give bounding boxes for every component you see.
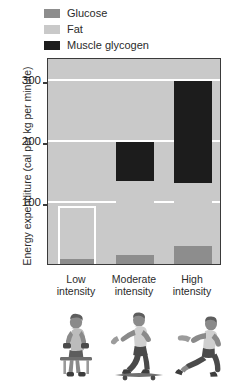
bar-segment-fat <box>116 181 154 255</box>
bar-low-intensity <box>58 206 96 264</box>
legend-item-muscle-glycogen: Muscle glycogen <box>44 38 224 53</box>
legend-item-glucose: Glucose <box>44 6 224 21</box>
legend-swatch-fat <box>44 25 60 34</box>
x-label-moderate-intensity: Moderateintensity <box>105 273 163 297</box>
bar-segment-fat <box>174 183 212 246</box>
exercise-illustrations <box>47 306 227 381</box>
skateboarding-icon <box>109 311 167 381</box>
legend-item-fat: Fat <box>44 22 224 37</box>
legend-swatch-glucose <box>44 9 60 18</box>
bar-segment-glucose <box>116 255 154 264</box>
x-label-low-intensity: Lowintensity <box>47 273 105 297</box>
plot-area <box>47 58 221 265</box>
y-tick-label-300: 300 <box>1 74 41 86</box>
x-label-high-intensity: Highintensity <box>163 273 221 297</box>
bar-segment-muscle-glycogen <box>116 142 154 180</box>
energy-expenditure-chart: Glucose Fat Muscle glycogen Energy expen… <box>0 0 233 381</box>
y-tick-label-200: 200 <box>1 135 41 147</box>
chart-legend: Glucose Fat Muscle glycogen <box>44 6 224 54</box>
bar-segment-fat <box>60 208 94 259</box>
sprinting-runner-icon <box>169 313 227 381</box>
legend-label-fat: Fat <box>67 23 83 36</box>
bar-high-intensity <box>174 81 212 264</box>
legend-swatch-muscle-glycogen <box>44 41 60 50</box>
bar-moderate-intensity <box>116 142 154 264</box>
bar-segment-glucose <box>60 259 94 264</box>
bar-segment-glucose <box>174 246 212 264</box>
y-tick-label-100: 100 <box>1 196 41 208</box>
seated-dumbbell-exercise-icon <box>51 313 101 381</box>
legend-label-muscle-glycogen: Muscle glycogen <box>67 39 149 52</box>
legend-label-glucose: Glucose <box>67 7 107 20</box>
bar-segment-muscle-glycogen <box>174 81 212 183</box>
